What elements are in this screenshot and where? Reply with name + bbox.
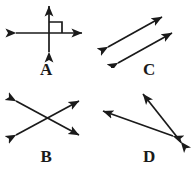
figure-c: C [97,0,194,86]
figure-sheet: A C [0,0,195,172]
figure-a-drawing [0,0,97,68]
figure-c-drawing [97,0,194,68]
figure-d-label: D [101,147,195,167]
shallow-diagonal-arrow [103,111,173,136]
figure-d: D [97,86,194,172]
figure-b-drawing [0,86,97,154]
figure-a-label: A [0,60,95,80]
right-angle-mark [49,22,62,33]
figure-c-label: C [101,60,195,80]
steep-diagonal-arrow [143,94,181,142]
figure-a: A [0,0,97,86]
figure-b-label: B [0,147,95,167]
figure-d-drawing [97,86,194,154]
figure-b: B [0,86,97,172]
